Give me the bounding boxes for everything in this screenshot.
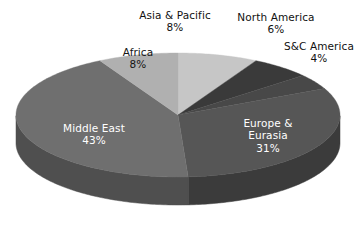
slice-label-europe-eurasia: Europe & Eurasia 31%	[217, 117, 319, 154]
slice-label-north-america: North America 6%	[223, 12, 329, 36]
slice-label-north-america-percent: 6%	[223, 24, 329, 36]
slice-label-europe-eurasia-percent: 31%	[217, 142, 319, 154]
slice-label-asia-pacific-percent: 8%	[120, 22, 230, 34]
pie-top-faces	[16, 53, 340, 177]
slice-label-europe-eurasia-name2: Eurasia	[217, 129, 319, 141]
slice-label-africa: Africa 8%	[99, 47, 177, 71]
slice-label-sc-america-name: S&C America	[277, 41, 361, 53]
slice-label-africa-name: Africa	[99, 47, 177, 59]
slice-label-asia-pacific-name: Asia & Pacific	[120, 10, 230, 22]
slice-label-north-america-name: North America	[223, 12, 329, 24]
slice-label-africa-percent: 8%	[99, 59, 177, 71]
slice-label-asia-pacific: Asia & Pacific 8%	[120, 10, 230, 34]
pie-chart: Asia & Pacific 8% North America 6% S&C A…	[0, 0, 362, 241]
slice-label-sc-america: S&C America 4%	[277, 41, 361, 65]
slice-label-middle-east: Middle East 43%	[42, 123, 146, 147]
slice-label-europe-eurasia-name: Europe &	[217, 117, 319, 129]
slice-label-sc-america-percent: 4%	[277, 53, 361, 65]
slice-label-middle-east-percent: 43%	[42, 135, 146, 147]
slice-label-middle-east-name: Middle East	[42, 123, 146, 135]
